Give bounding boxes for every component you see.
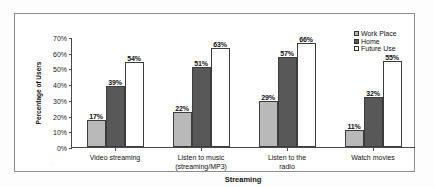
x-axis-group-label-line: Listen to music [155, 153, 247, 162]
legend-swatch-icon [354, 31, 359, 36]
bar-value-label: 54% [127, 55, 140, 62]
bar-home[interactable]: 39% [106, 86, 125, 147]
bar-value-label: 17% [89, 113, 102, 120]
legend-item-home[interactable]: Home [354, 38, 397, 46]
bar-future-use[interactable]: 66% [297, 43, 316, 147]
bar-group: 29%57%66%Listen to theradio [244, 38, 330, 147]
bar-group: 17%39%54%Video streaming [72, 38, 158, 147]
legend-item-label: Home [361, 38, 380, 46]
x-axis-group-label: Watch movies [327, 153, 419, 162]
bar-work-place[interactable]: 29% [259, 101, 278, 147]
x-axis-tick-mark [201, 147, 202, 151]
x-axis-group-label-line: radio [241, 162, 333, 171]
x-axis-group-label: Listen to music(streaming/MP3) [155, 153, 247, 171]
bar-group: 22%51%63%Listen to music(streaming/MP3) [158, 38, 244, 147]
bar-value-label: 63% [213, 41, 226, 48]
y-axis-tick-label: 20% [29, 113, 72, 120]
bar-value-label: 51% [194, 60, 207, 67]
bar-value-label: 55% [385, 54, 398, 61]
plot-area: 0%10%20%30%40%50%60%70%17%39%54%Video st… [71, 38, 415, 148]
x-axis-group-label-line: Watch movies [327, 153, 419, 162]
legend-item-work-place[interactable]: Work Place [354, 30, 397, 38]
x-axis-tick-mark [373, 147, 374, 151]
bar-value-label: 32% [366, 90, 379, 97]
bar-group-bars: 22%51%63% [158, 38, 244, 147]
bar-home[interactable]: 57% [278, 57, 297, 147]
bar-value-label: 39% [108, 79, 121, 86]
bar-group-bars: 11%32%55% [330, 38, 416, 147]
legend-item-future-use[interactable]: Future Use [354, 45, 397, 53]
y-axis-tick-label: 0% [29, 145, 72, 152]
x-axis-group-label: Listen to theradio [241, 153, 333, 171]
x-axis-group-label: Video streaming [69, 153, 161, 162]
bar-value-label: 29% [261, 94, 274, 101]
y-axis-tick-mark [69, 148, 72, 149]
bar-work-place[interactable]: 17% [87, 120, 106, 147]
y-axis-tick-label: 70% [29, 35, 72, 42]
x-axis-title: Streaming [71, 175, 415, 184]
bar-value-label: 57% [280, 50, 293, 57]
bar-future-use[interactable]: 63% [211, 48, 230, 147]
y-axis-tick-label: 60% [29, 50, 72, 57]
bar-value-label: 66% [299, 36, 312, 43]
y-axis-tick-label: 40% [29, 82, 72, 89]
legend-swatch-icon [354, 46, 359, 51]
x-axis-group-label-line: Listen to the [241, 153, 333, 162]
bar-work-place[interactable]: 22% [173, 112, 192, 147]
y-axis-tick-label: 10% [29, 129, 72, 136]
legend-item-label: Work Place [361, 30, 397, 38]
x-axis-group-label-line: (streaming/MP3) [155, 162, 247, 171]
x-axis-tick-mark [115, 147, 116, 151]
bar-group: 11%32%55%Watch movies [330, 38, 416, 147]
bar-group-bars: 17%39%54% [72, 38, 158, 147]
bar-home[interactable]: 32% [364, 97, 383, 147]
chart-legend: Work PlaceHomeFuture Use [352, 29, 399, 54]
bar-value-label: 11% [347, 123, 360, 130]
y-axis-tick-label: 30% [29, 97, 72, 104]
chart-frame: Percentage of Users 0%10%20%30%40%50%60%… [14, 13, 415, 172]
bar-future-use[interactable]: 55% [383, 61, 402, 147]
bar-home[interactable]: 51% [192, 67, 211, 147]
y-axis-tick-label: 50% [29, 66, 72, 73]
x-axis-tick-mark [287, 147, 288, 151]
bar-group-bars: 29%57%66% [244, 38, 330, 147]
legend-swatch-icon [354, 39, 359, 44]
legend-item-label: Future Use [361, 45, 396, 53]
bar-future-use[interactable]: 54% [125, 62, 144, 147]
bar-value-label: 22% [175, 105, 188, 112]
x-axis-group-label-line: Video streaming [69, 153, 161, 162]
bar-chart-figure: Percentage of Users 0%10%20%30%40%50%60%… [0, 0, 434, 187]
bar-work-place[interactable]: 11% [345, 130, 364, 147]
